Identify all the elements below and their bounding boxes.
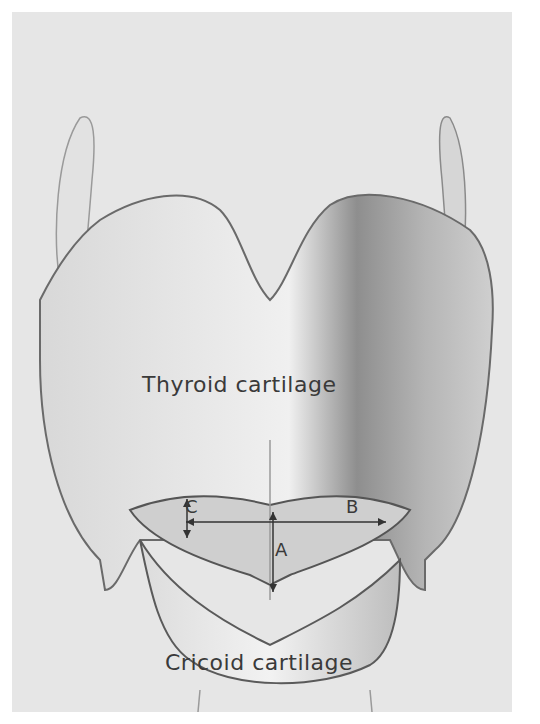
label-cricoid-cartilage: Cricoid cartilage <box>165 650 353 675</box>
label-measure-c: C <box>185 496 198 517</box>
label-thyroid-cartilage: Thyroid cartilage <box>142 372 336 397</box>
label-measure-a: A <box>275 539 288 560</box>
illustration-panel: Thyroid cartilage Cricoid cartilage A B … <box>12 12 512 712</box>
larynx-drawing <box>12 12 512 712</box>
label-measure-b: B <box>346 496 359 517</box>
